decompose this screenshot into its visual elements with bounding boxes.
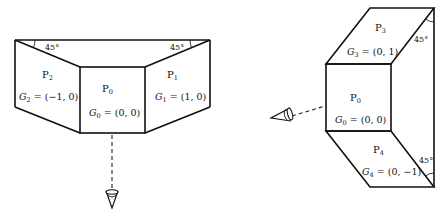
face-p2-label: P2: [42, 69, 53, 82]
face-p1-vector: G1 = (1, 0): [155, 91, 206, 104]
angle-arc-right: [190, 40, 192, 48]
face-p0-right-vector: G0 = (0, 0): [335, 114, 386, 127]
face-p0-left: [80, 67, 145, 133]
sight-line-left: [292, 106, 325, 116]
angle-arc-top: [426, 19, 435, 22]
face-p4-vector: G4 = (0, −1): [362, 166, 421, 179]
angle-label-right: 45°: [170, 43, 184, 52]
face-p2-vector: G2 = (−1, 0): [19, 91, 78, 104]
figure-canvas: 45° 45° P2 G2 = (−1, 0) P0 G0 = (0, 0) P…: [0, 0, 447, 219]
right-diagram: 45° 45° P3 G3 = (0, 1) P0 G0 = (0, 0) P4…: [271, 8, 434, 187]
face-p4-label: P4: [373, 144, 384, 157]
angle-label-bottom: 45°: [419, 156, 433, 165]
face-p3-label: P3: [375, 22, 386, 35]
face-p4: [326, 131, 434, 187]
face-p0-vector: G0 = (0, 0): [89, 107, 140, 120]
face-p1-label: P1: [167, 69, 178, 82]
angle-label-left: 45°: [45, 43, 59, 52]
angle-label-top: 45°: [414, 35, 428, 44]
face-p0-label: P0: [102, 83, 113, 96]
face-p3-vector: G3 = (0, 1): [347, 46, 398, 59]
eye-icon-left: [271, 108, 294, 121]
eye-icon: [106, 190, 118, 208]
angle-arc-left: [34, 40, 36, 48]
face-p0-right-label: P0: [350, 92, 361, 105]
angle-arc-bottom: [426, 173, 435, 176]
left-bottom-diagonal: [15, 107, 80, 133]
right-bottom-diagonal: [145, 107, 210, 133]
left-diagram: 45° 45° P2 G2 = (−1, 0) P0 G0 = (0, 0) P…: [15, 40, 210, 208]
